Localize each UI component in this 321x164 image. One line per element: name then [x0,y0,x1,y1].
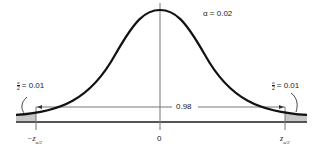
arrowhead-left [37,105,42,109]
arrowhead-right [279,105,284,109]
bell-curve [16,10,307,115]
alpha-label: α = 0.02 [203,9,232,18]
center-tick-label: 0 [157,134,161,143]
left-critical-label: −zα/2 [27,134,42,145]
right-tail-pointer [291,93,297,112]
middle-area-label: 0.98 [176,102,192,111]
left-tail-pointer [22,97,27,114]
right-critical-label: zα/2 [280,134,290,145]
left-tail-label: α 2 = 0.01 [17,80,44,91]
right-tail-label: α 2 = 0.01 [272,80,299,91]
normal-curve-diagram: α = 0.02 α 2 = 0.01 α 2 = 0.01 0.98 0 −z… [0,0,321,164]
